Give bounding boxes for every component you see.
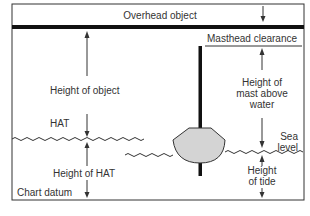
masthead-clearance-label: Masthead clearance — [207, 33, 297, 44]
height-of-tide-line2: of tide — [242, 176, 282, 187]
arrow-down-icon — [260, 188, 265, 198]
arrow-down-icon — [260, 118, 265, 148]
height-of-mast-line1: Height of — [228, 77, 296, 88]
height-of-mast-line2: mast above — [228, 88, 296, 99]
overhead-object-label: Overhead object — [100, 10, 220, 21]
height-of-mast-line3: water — [228, 99, 296, 110]
height-of-hat-label: Height of HAT — [53, 168, 115, 179]
sea-level-label: Sea level — [268, 131, 298, 153]
arrow-down-icon — [85, 114, 90, 137]
arrow-down-icon — [85, 180, 90, 198]
height-of-mast-label: Height of mast above water — [228, 77, 296, 110]
sea-level-line1: Sea — [268, 131, 298, 142]
sea-level-wave-line — [125, 154, 173, 157]
arrow-up-icon — [260, 48, 265, 70]
hat-label: HAT — [50, 118, 69, 129]
hat-wave-line — [12, 138, 144, 141]
sea-level-line2: level — [268, 142, 298, 153]
arrow-up-icon — [85, 31, 90, 76]
boat-hull — [173, 128, 225, 163]
overhead-object-bar — [12, 25, 304, 29]
height-of-tide-line1: Height — [242, 165, 282, 176]
height-of-tide-label: Height of tide — [242, 165, 282, 187]
arrow-up-icon — [85, 142, 90, 166]
chart-datum-label: Chart datum — [17, 187, 72, 198]
arrow-down-icon — [261, 6, 266, 22]
height-of-object-label: Height of object — [50, 85, 120, 96]
